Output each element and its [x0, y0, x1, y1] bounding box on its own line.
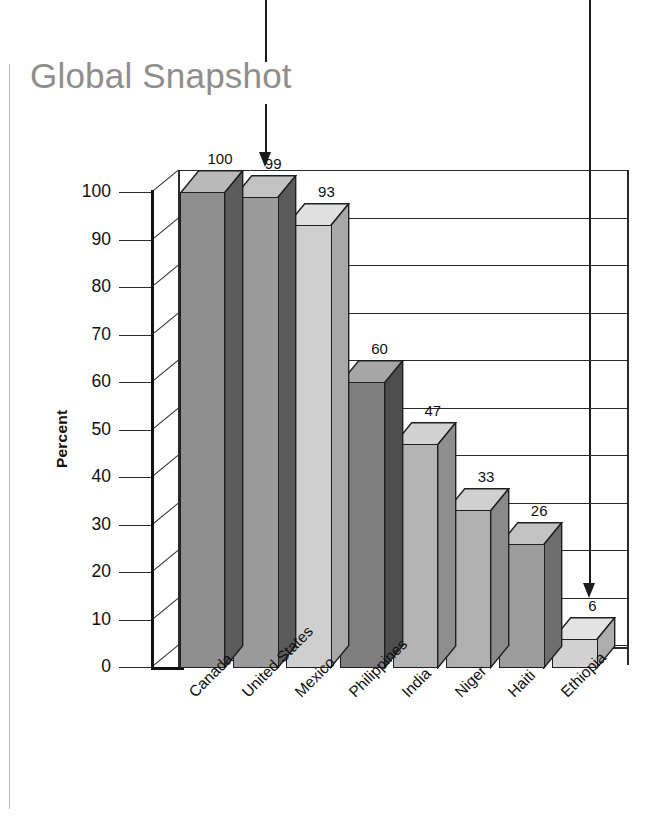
y-tick-depth-70: [151, 313, 179, 336]
y-tick-depth-80: [151, 265, 179, 288]
bar-value-label: 47: [397, 403, 469, 418]
bar-side-face: [437, 422, 457, 669]
x-axis-label-haiti: Haiti: [505, 667, 538, 700]
y-axis-label-80: 80: [59, 278, 111, 296]
y-tick-80: [119, 287, 151, 288]
y-axis-label-60: 60: [59, 373, 111, 391]
y-tick-depth-50: [151, 408, 179, 431]
y-axis-label-20: 20: [59, 563, 111, 581]
y-axis-label-40: 40: [59, 468, 111, 486]
figure-page: Global Snapshot 0102030405060708090100Pe…: [0, 0, 658, 826]
y-tick-100: [119, 192, 151, 193]
y-tick-40: [119, 477, 151, 478]
y-tick-depth-20: [151, 550, 179, 573]
chart-plot-area: 0102030405060708090100Percent6Ethiopia26…: [0, 0, 658, 826]
bar-value-label: 6: [556, 598, 628, 613]
bar-value-label: 93: [290, 184, 362, 199]
chart-right-frame: [627, 170, 629, 665]
y-axis-label-100: 100: [59, 183, 111, 201]
y-tick-50: [119, 430, 151, 431]
x-axis-label-india: India: [399, 665, 434, 700]
bar-side-face: [384, 360, 404, 669]
bar-side-face: [330, 203, 350, 669]
y-tick-depth-100: [151, 170, 179, 193]
bar-side-face: [490, 488, 510, 669]
y-axis-line-front: [151, 190, 154, 669]
y-tick-depth-30: [151, 503, 179, 526]
y-tick-depth-90: [151, 218, 179, 241]
bar-value-label: 33: [450, 469, 522, 484]
y-tick-70: [119, 335, 151, 336]
bar-value-label: 100: [184, 151, 256, 166]
y-tick-depth-10: [151, 598, 179, 621]
y-axis-label-10: 10: [59, 611, 111, 629]
bar-front-face: [180, 192, 225, 668]
y-tick-10: [119, 620, 151, 621]
y-tick-60: [119, 382, 151, 383]
y-tick-depth-60: [151, 360, 179, 383]
y-tick-30: [119, 525, 151, 526]
y-tick-depth-0: [151, 645, 179, 668]
y-axis-label-70: 70: [59, 326, 111, 344]
bar-side-face: [277, 175, 297, 669]
y-tick-90: [119, 240, 151, 241]
bar-value-label: 26: [503, 503, 575, 518]
y-tick-0: [119, 667, 151, 668]
y-axis-label-30: 30: [59, 516, 111, 534]
y-axis-label-90: 90: [59, 231, 111, 249]
y-tick-depth-40: [151, 455, 179, 478]
y-axis-title: Percent: [53, 410, 71, 468]
bar-side-face: [224, 170, 244, 669]
bar-side-face: [543, 522, 563, 670]
bar-value-label: 60: [344, 341, 416, 356]
y-tick-20: [119, 572, 151, 573]
y-axis-label-0: 0: [59, 658, 111, 676]
